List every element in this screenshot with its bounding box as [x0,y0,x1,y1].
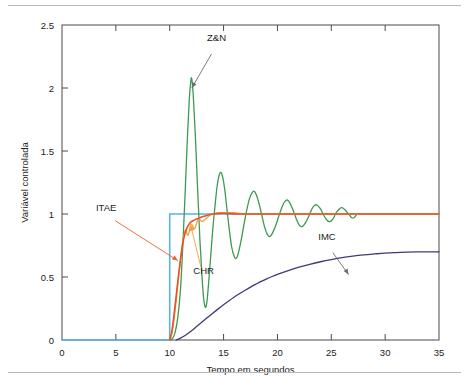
bottom-divider-rule [8,372,461,373]
figure-container: 0510152025303500.511.522.5Tempo em segun… [0,0,469,385]
x-axis-tick-label: 5 [113,347,118,358]
y-axis-tick-label: 2 [49,83,54,94]
annotation-imc: IMC [318,231,348,274]
series-line-setpoint-degrau [62,214,439,340]
y-axis-tick-label: 0.5 [41,272,54,283]
top-divider-rule [8,5,461,6]
annotation-leader-line [115,221,178,261]
y-axis-tick-label: 2.5 [41,20,54,31]
annotation-itae: ITAE [96,202,178,260]
series-line-itae [170,213,439,340]
series-line-imc [176,252,439,340]
y-axis-tick-label: 1.5 [41,146,54,157]
series-line-z-n [170,78,356,340]
chart-plot: 0510152025303500.511.522.5Tempo em segun… [0,0,469,385]
x-axis-tick-label: 0 [59,347,64,358]
annotation-arrowhead [344,269,349,275]
plot-frame [62,25,439,340]
annotation-label: CHR [193,265,214,276]
x-axis-tick-label: 35 [434,347,445,358]
annotation-z-n: Z&N [192,32,226,88]
annotation-label: ITAE [96,202,116,213]
annotation-chr: CHR [190,225,214,276]
y-axis-title: Variável controlada [19,141,30,222]
annotation-leader-line [192,54,212,88]
annotation-label: Z&N [207,32,226,43]
annotation-arrowhead [172,256,178,261]
x-axis-tick-label: 20 [272,347,283,358]
y-axis-tick-label: 0 [49,335,54,346]
x-axis-tick-label: 10 [164,347,175,358]
annotation-label: IMC [318,231,336,242]
x-axis-tick-label: 25 [326,347,337,358]
x-axis-title: Tempo em segundos [206,364,294,375]
annotation-arrowhead [192,82,197,88]
y-axis-tick-label: 1 [49,209,54,220]
x-axis-tick-label: 15 [218,347,229,358]
x-axis-tick-label: 30 [380,347,391,358]
